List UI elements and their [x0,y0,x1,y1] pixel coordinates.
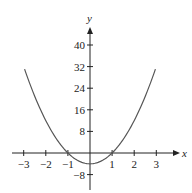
x-tick-label: −3 [18,158,30,170]
x-tick-label: 1 [109,158,115,170]
y-tick-label: 8 [80,125,86,137]
x-axis-label: x [181,147,187,159]
y-tick-label: −8 [73,169,85,181]
y-tick-label: 32 [74,61,85,73]
y-axis-label: y [86,12,92,24]
parabola-chart: x y −3−2−1123 −8816243240 [0,0,192,193]
y-tick-label: 16 [74,104,86,116]
x-tick-label: −1 [62,158,74,170]
x-axis-arrow-icon [173,150,180,156]
x-tick-label: 2 [131,158,137,170]
x-tick-label: 3 [154,158,160,170]
y-tick-label: 40 [74,39,86,51]
y-axis-arrow-icon [87,27,93,34]
y-tick-label: 24 [74,82,86,94]
x-tick-label: −2 [40,158,52,170]
